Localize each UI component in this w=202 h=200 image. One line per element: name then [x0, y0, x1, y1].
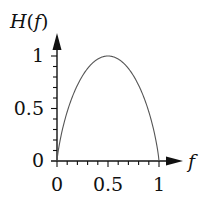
x-axis-arrow-icon [166, 157, 183, 166]
y-axis-label: H(f) [9, 10, 48, 32]
x-tick-label-0: 0 [51, 173, 63, 195]
x-tick-label-0.5: 0.5 [93, 173, 123, 195]
x-ticks [57, 161, 159, 167]
x-axis-label: f [186, 150, 198, 172]
y-tick-label-0.5: 0.5 [14, 97, 44, 119]
y-axis-arrow-icon [53, 33, 62, 50]
y-tick-label-0: 0 [32, 149, 44, 171]
entropy-chart: H(f) f 1 0.5 0 0 0.5 1 [0, 0, 202, 200]
x-tick-label-1: 1 [153, 173, 165, 195]
y-ticks [51, 56, 57, 151]
entropy-curve [57, 56, 159, 161]
y-tick-label-1: 1 [32, 44, 44, 66]
